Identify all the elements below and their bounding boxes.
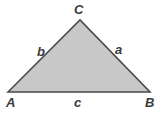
side-label-c: c bbox=[74, 96, 81, 109]
triangle-diagram: C A B b a c bbox=[0, 0, 161, 119]
side-label-a: a bbox=[115, 43, 122, 56]
side-label-b: b bbox=[37, 45, 45, 58]
vertex-label-c: C bbox=[74, 3, 83, 16]
vertex-label-a: A bbox=[6, 96, 15, 109]
triangle-polygon bbox=[8, 20, 150, 92]
vertex-label-b: B bbox=[145, 96, 154, 109]
